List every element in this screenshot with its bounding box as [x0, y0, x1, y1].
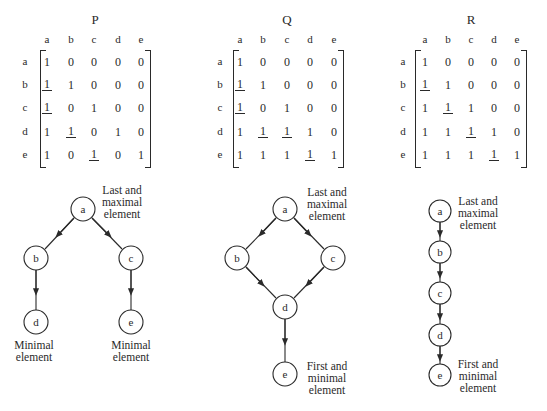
label-line: minimal — [307, 372, 348, 384]
diagram-q-edges — [246, 218, 324, 362]
node-label: b — [33, 252, 39, 264]
node-label: a — [438, 205, 443, 217]
label-last-maximal-p: Last and maximal element — [102, 184, 142, 220]
node-label: e — [283, 368, 288, 380]
node-label: d — [33, 316, 39, 328]
label-line: element — [307, 210, 347, 222]
label-line: Last and — [458, 195, 498, 207]
node-label: c — [331, 252, 336, 264]
label-minimal-e: Minimal element — [111, 339, 151, 363]
label-line: element — [307, 384, 348, 396]
node-label: b — [234, 252, 240, 264]
label-first-minimal-q: First and minimal element — [307, 360, 348, 396]
label-line: element — [458, 219, 498, 231]
node-label: e — [129, 316, 134, 328]
label-line: minimal — [458, 370, 499, 382]
label-line: maximal — [307, 198, 347, 210]
label-last-maximal-r: Last and maximal element — [458, 195, 498, 231]
node-label: d — [437, 329, 443, 341]
node-label: e — [438, 369, 443, 381]
node-label: d — [282, 301, 288, 313]
label-line: First and — [307, 360, 348, 372]
label-line: element — [102, 208, 142, 220]
node-label: a — [283, 203, 288, 215]
node-label: c — [438, 287, 443, 299]
label-line: Last and — [102, 184, 142, 196]
label-line: element — [111, 351, 151, 363]
label-line: Minimal — [14, 339, 54, 351]
label-first-minimal-r: First and minimal element — [458, 358, 499, 394]
label-line: maximal — [458, 207, 498, 219]
label-last-maximal-q: Last and maximal element — [307, 186, 347, 222]
node-label: a — [81, 203, 86, 215]
node-label: b — [437, 246, 443, 258]
diagram-p-edges — [36, 218, 131, 310]
label-line: maximal — [102, 196, 142, 208]
node-label: c — [129, 252, 134, 264]
label-minimal-d: Minimal element — [14, 339, 54, 363]
label-line: Minimal — [111, 339, 151, 351]
label-line: element — [14, 351, 54, 363]
label-line: First and — [458, 358, 499, 370]
label-line: element — [458, 382, 499, 394]
label-line: Last and — [307, 186, 347, 198]
